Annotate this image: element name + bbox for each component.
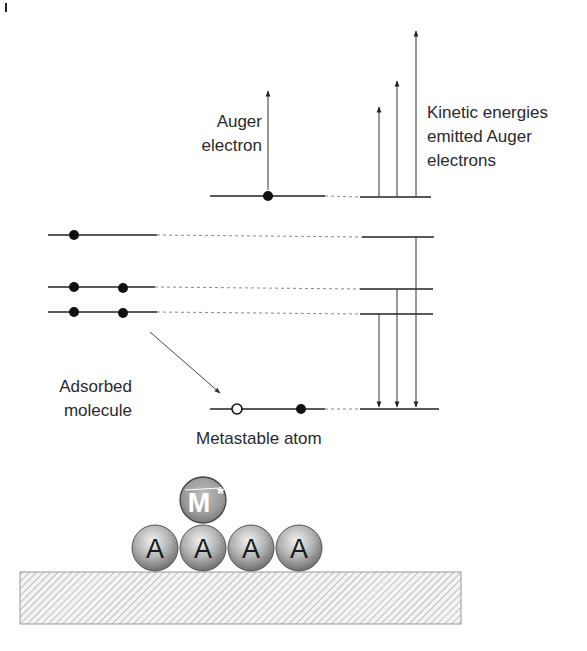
kinetic-label-line3: electrons <box>427 151 496 170</box>
electron-dot <box>118 308 128 318</box>
svg-text:A: A <box>194 534 212 564</box>
adsorbate-sphere: A <box>132 525 178 571</box>
metastable-label: Metastable atom <box>196 429 322 448</box>
molecule-level-3 <box>48 307 433 318</box>
auger-electron-group: Auger electron <box>202 91 268 190</box>
transition-arrows <box>379 237 416 407</box>
molecule-level-1 <box>48 230 434 240</box>
hole-circle <box>232 404 242 414</box>
metastable-ground-level <box>210 404 439 414</box>
adsorbate-sphere: A <box>180 525 226 571</box>
electron-dot <box>118 283 128 293</box>
svg-text:M: M <box>188 488 211 518</box>
svg-text:*: * <box>217 484 224 504</box>
substrate <box>20 572 461 624</box>
kinetic-label-line1: Kinetic energies <box>427 103 548 122</box>
auger-diagram: Auger electron Kinetic energies emitted … <box>0 0 587 651</box>
svg-text:A: A <box>290 534 308 564</box>
kinetic-energy-arrows <box>379 31 416 197</box>
electron-dot <box>69 307 79 317</box>
diagonal-arrow <box>150 332 220 393</box>
molecule-level-2 <box>48 282 433 293</box>
auger-label-line1: Auger <box>217 112 263 131</box>
electron-dot <box>263 191 273 201</box>
metastable-sphere: M * <box>180 477 226 523</box>
adsorbate-sphere: A <box>276 525 322 571</box>
adsorbate-row: A A A A <box>132 525 322 571</box>
auger-label-line2: electron <box>202 136 262 155</box>
adsorbed-label-line2: molecule <box>64 401 132 420</box>
svg-text:A: A <box>146 534 164 564</box>
metastable-excited-level <box>210 191 431 201</box>
adsorbate-sphere: A <box>228 525 274 571</box>
electron-dot <box>69 282 79 292</box>
electron-dot <box>296 404 306 414</box>
kinetic-label-line2: emitted Auger <box>427 127 532 146</box>
svg-text:A: A <box>242 534 260 564</box>
adsorbed-label-line1: Adsorbed <box>59 377 132 396</box>
electron-dot <box>69 230 79 240</box>
